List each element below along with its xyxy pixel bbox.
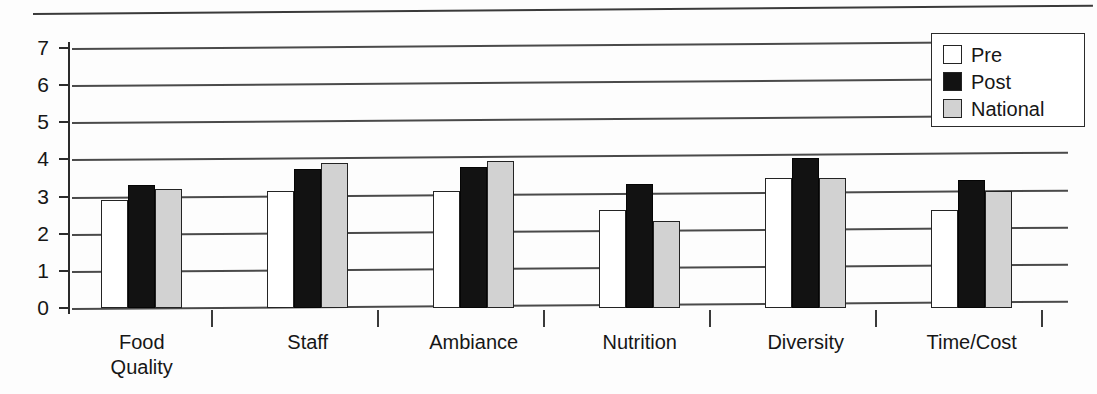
x-axis-tick <box>1041 310 1043 327</box>
y-axis-label: 1 <box>23 260 49 281</box>
y-axis-label: 0 <box>23 297 49 318</box>
y-axis-label: 5 <box>23 111 49 132</box>
x-axis-label: Ambiance <box>394 330 554 355</box>
y-axis-label: 2 <box>23 223 49 244</box>
x-axis-label: Time/Cost <box>892 330 1052 355</box>
legend-label-national: National <box>971 99 1044 119</box>
y-axis-tick <box>59 307 70 309</box>
y-axis-tick <box>59 233 70 235</box>
legend-item: National <box>943 95 1084 122</box>
y-axis-label: 3 <box>23 186 49 207</box>
legend-label-post: Post <box>971 72 1011 92</box>
x-axis-label: Nutrition <box>560 330 720 355</box>
y-axis-label: 6 <box>23 74 49 95</box>
x-axis-label: Staff <box>228 330 388 355</box>
y-axis-label: 7 <box>23 37 49 58</box>
legend-swatch-post-icon <box>943 72 962 91</box>
scanned-page: 01234567Food QualityStaffAmbianceNutriti… <box>0 0 1097 394</box>
y-axis-line <box>68 42 70 314</box>
x-axis-tick <box>377 310 379 327</box>
legend-swatch-national-icon <box>943 99 962 118</box>
y-axis-tick <box>59 158 70 160</box>
y-axis-tick <box>59 121 70 123</box>
y-axis-tick <box>59 47 70 49</box>
y-axis-tick <box>59 270 70 272</box>
legend-item: Post <box>943 68 1084 95</box>
y-axis-label: 4 <box>23 148 49 169</box>
legend-label-pre: Pre <box>971 45 1002 65</box>
legend-item: Pre <box>943 41 1084 68</box>
legend-swatch-pre-icon <box>943 45 962 64</box>
x-axis-label: Food Quality <box>62 330 222 380</box>
x-axis-tick <box>875 310 877 327</box>
x-axis-tick <box>709 310 711 327</box>
x-axis-tick <box>211 310 213 327</box>
chart-legend: Pre Post National <box>931 33 1085 127</box>
y-axis-tick <box>59 196 70 198</box>
y-axis-tick <box>59 84 70 86</box>
x-axis-label: Diversity <box>726 330 886 355</box>
x-axis-tick <box>543 310 545 327</box>
